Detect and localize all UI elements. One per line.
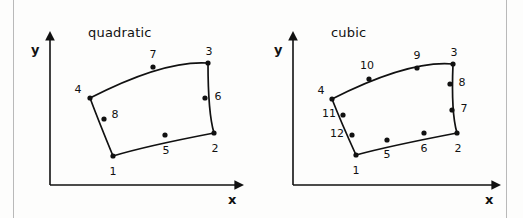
node-dot-5: [384, 137, 389, 142]
node-label-4: 4: [318, 84, 325, 97]
node-dot-8: [101, 116, 106, 121]
node-label-11: 11: [322, 107, 336, 120]
node-dot-4: [87, 95, 92, 100]
node-dot-5: [162, 132, 167, 137]
left-border-rule: [13, 0, 14, 218]
node-dot-2: [454, 130, 459, 135]
node-label-2: 2: [212, 142, 219, 155]
node-label-7: 7: [150, 48, 157, 61]
panel-quadratic: quadratic y x 1 2 3 4 5 6 7 8: [16, 0, 256, 218]
node-dot-3: [205, 60, 210, 65]
node-dot-2: [211, 130, 216, 135]
cubic-node-dots: [329, 61, 459, 157]
node-label-4: 4: [75, 83, 82, 96]
node-dot-8: [447, 81, 452, 86]
node-label-5: 5: [384, 148, 391, 161]
y-axis-label: y: [274, 42, 282, 57]
node-dot-6: [421, 130, 426, 135]
node-label-3: 3: [451, 46, 458, 59]
figure-canvas: quadratic y x 1 2 3 4 5 6 7 8: [0, 0, 523, 218]
node-label-9: 9: [414, 49, 421, 62]
panel-title-cubic: cubic: [331, 25, 366, 40]
node-label-8: 8: [459, 76, 466, 89]
node-label-1: 1: [110, 165, 117, 178]
node-label-6: 6: [215, 90, 222, 103]
panel-title-quadratic: quadratic: [88, 25, 152, 40]
node-label-2: 2: [455, 142, 462, 155]
y-axis-label: y: [31, 42, 39, 57]
node-label-7: 7: [461, 102, 468, 115]
node-dot-1: [110, 153, 115, 158]
node-dot-6: [202, 95, 207, 100]
node-label-10: 10: [360, 59, 374, 72]
node-dot-7: [150, 64, 155, 69]
cubic-element-outline: [332, 64, 457, 155]
quadratic-node-dots: [87, 60, 216, 158]
node-dot-1: [353, 152, 358, 157]
node-dot-10: [366, 76, 371, 81]
panel-cubic: cubic y x 1 2 3 4 5 6 7 8 9 10 11 12: [259, 0, 499, 218]
quadratic-element-outline: [90, 63, 214, 156]
node-label-6: 6: [421, 142, 428, 155]
node-label-3: 3: [206, 45, 213, 58]
node-label-12: 12: [330, 127, 344, 140]
x-axis-label: x: [228, 192, 236, 207]
node-dot-4: [329, 96, 334, 101]
node-dot-3: [450, 61, 455, 66]
node-label-5: 5: [163, 144, 170, 157]
node-dot-9: [414, 65, 419, 70]
node-label-1: 1: [353, 164, 360, 177]
x-axis-label: x: [485, 192, 493, 207]
node-label-8: 8: [112, 108, 119, 121]
right-border-rule: [506, 0, 507, 218]
node-dot-11: [340, 112, 345, 117]
node-dot-7: [449, 107, 454, 112]
node-dot-12: [349, 132, 354, 137]
